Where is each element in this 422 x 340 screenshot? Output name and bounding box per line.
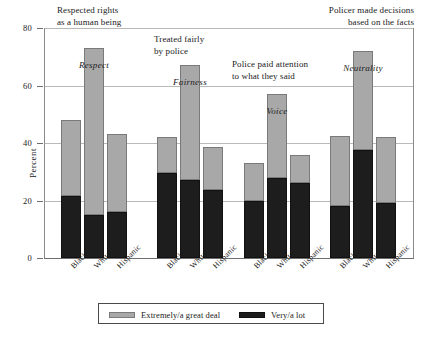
annotation-line: as a human being (57, 17, 121, 29)
legend-swatch-gray (109, 312, 135, 318)
group-label-neutrality: Neutrality (343, 63, 383, 73)
bar-voice-black (244, 163, 264, 258)
bar-segment-extremely-a-great-deal (203, 147, 223, 190)
bar-segment-very-a-lot (353, 150, 373, 258)
y-tick-mark (37, 86, 43, 87)
legend-swatch-black (239, 312, 265, 318)
y-axis-title: Percent (28, 148, 38, 178)
legend-item-very-a-lot: Very/a lot (239, 308, 305, 321)
bar-segment-extremely-a-great-deal (157, 137, 177, 173)
bar-fairness-hispanic (203, 147, 223, 258)
annotation-line: Treated fairly (154, 34, 204, 46)
bar-segment-very-a-lot (107, 212, 127, 258)
y-tick-mark (37, 28, 43, 29)
bar-respect-white (84, 48, 104, 258)
annotation-respect: Respected rightsas a human being (57, 5, 121, 28)
bar-segment-extremely-a-great-deal (244, 163, 264, 200)
y-tick-label: 0 (8, 253, 32, 263)
plot-border-right (413, 28, 414, 259)
gridline-80 (44, 28, 414, 29)
annotation-voice: Police paid attentionto what they said (232, 59, 308, 82)
legend-label: Very/a lot (271, 310, 305, 320)
bar-segment-very-a-lot (376, 203, 396, 258)
bar-segment-very-a-lot (61, 196, 81, 258)
bar-voice-white (267, 94, 287, 258)
annotation-line: to what they said (232, 71, 308, 83)
bar-segment-extremely-a-great-deal (376, 137, 396, 203)
legend-item-extremely-a-great-deal: Extremely/a great deal (109, 308, 220, 321)
bar-segment-extremely-a-great-deal (330, 136, 350, 206)
bar-voice-hispanic (290, 155, 310, 259)
bar-segment-very-a-lot (290, 183, 310, 258)
group-label-voice: Voice (267, 106, 288, 116)
bar-neutrality-white (353, 51, 373, 258)
bar-fairness-white (180, 65, 200, 258)
bar-segment-very-a-lot (157, 173, 177, 258)
annotation-fairness: Treated fairlyby police (154, 34, 204, 57)
y-tick-label: 40 (8, 138, 32, 148)
bar-respect-hispanic (107, 134, 127, 258)
chart-container: Percent 020406080 BlackWhiteHispanicBlac… (0, 0, 422, 340)
y-tick-label: 60 (8, 81, 32, 91)
legend: Extremely/a great deal Very/a lot (98, 303, 324, 324)
bar-segment-very-a-lot (203, 190, 223, 258)
bar-segment-very-a-lot (330, 206, 350, 258)
group-label-fairness: Fairness (173, 77, 207, 87)
y-tick-label: 80 (8, 23, 32, 33)
annotation-line: by police (154, 46, 204, 58)
bar-segment-very-a-lot (84, 215, 104, 258)
group-label-respect: Respect (79, 60, 109, 70)
bar-fairness-black (157, 137, 177, 258)
bar-neutrality-hispanic (376, 137, 396, 258)
y-tick-mark (37, 258, 43, 259)
plot-border-left (44, 28, 45, 259)
annotation-neutrality: Policer made decisionsbased on the facts (329, 5, 414, 28)
y-tick-mark (37, 143, 43, 144)
bar-segment-extremely-a-great-deal (107, 134, 127, 212)
bar-respect-black (61, 120, 81, 258)
bar-segment-extremely-a-great-deal (290, 155, 310, 184)
bar-neutrality-black (330, 136, 350, 258)
bar-segment-very-a-lot (180, 180, 200, 258)
bar-segment-very-a-lot (244, 201, 264, 259)
y-tick-mark (37, 201, 43, 202)
annotation-line: based on the facts (329, 17, 414, 29)
legend-label: Extremely/a great deal (141, 310, 220, 320)
annotation-line: Police paid attention (232, 59, 308, 71)
annotation-line: Policer made decisions (329, 5, 414, 17)
bar-segment-extremely-a-great-deal (84, 48, 104, 215)
y-tick-label: 20 (8, 196, 32, 206)
bar-segment-extremely-a-great-deal (61, 120, 81, 196)
annotation-line: Respected rights (57, 5, 121, 17)
bar-segment-very-a-lot (267, 178, 287, 259)
